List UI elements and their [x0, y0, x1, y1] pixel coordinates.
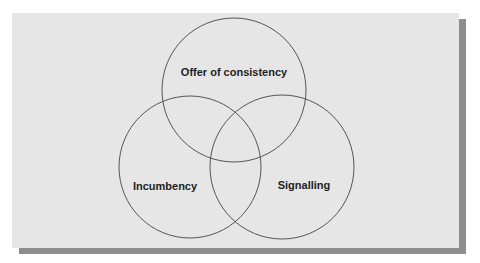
circle-signalling — [210, 95, 354, 239]
label-offer-of-consistency: Offer of consistency — [181, 66, 287, 78]
venn-diagram — [0, 0, 480, 263]
label-incumbency: Incumbency — [133, 180, 197, 192]
label-signalling: Signalling — [278, 179, 331, 191]
circle-incumbency — [119, 96, 261, 238]
circle-offer-of-consistency — [162, 18, 306, 162]
